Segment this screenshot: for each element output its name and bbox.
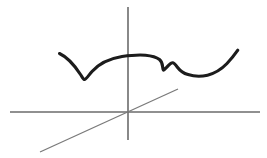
sketch-canvas — [0, 0, 267, 158]
sketch-drawing — [0, 0, 267, 158]
canvas-background — [0, 0, 267, 158]
